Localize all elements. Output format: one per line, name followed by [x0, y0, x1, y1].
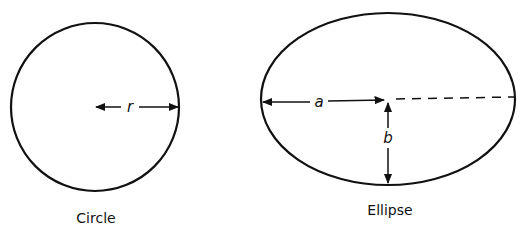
radius-label: r	[127, 98, 134, 116]
semi-minor-label: b	[383, 129, 393, 147]
semi-major-label: a	[314, 93, 323, 111]
ellipse-figure: a b Ellipse	[261, 13, 515, 218]
circle-figure: r Circle	[11, 23, 179, 226]
semi-major-arrow-right	[328, 100, 384, 101]
ellipse-caption: Ellipse	[367, 202, 412, 218]
major-axis-dashed-line	[396, 97, 514, 99]
circle-caption: Circle	[76, 210, 115, 226]
geometry-diagram: r Circle a b Ellipse	[0, 0, 523, 245]
